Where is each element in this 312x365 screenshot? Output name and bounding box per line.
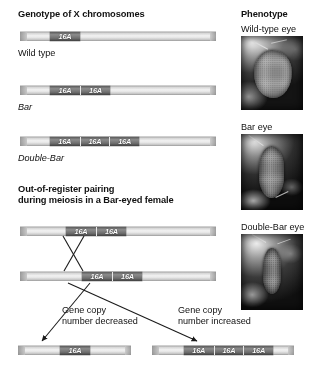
diagram-canvas: Genotype of X chromosomes Phenotype 16A …: [0, 0, 312, 365]
arrow-to-decreased: [42, 283, 90, 341]
connector-overlay: [0, 0, 312, 365]
crossover-line-left: [63, 236, 83, 271]
crossover-line-right: [64, 236, 84, 271]
arrow-to-increased: [68, 283, 197, 341]
